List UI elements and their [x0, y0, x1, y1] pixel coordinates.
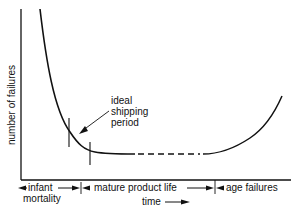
x-axis-label: time: [142, 196, 161, 207]
region-mature: mature product life: [94, 182, 177, 193]
region-age-failures: age failures: [226, 182, 278, 193]
arrow-left-icon: [216, 186, 224, 191]
annotation-line2: shipping: [111, 106, 148, 117]
y-axis-label: number of failures: [6, 65, 17, 145]
arrow-right-icon: [206, 186, 214, 191]
region-infant-line1: infant: [28, 182, 53, 193]
arrow-left-icon: [82, 186, 90, 191]
age-failures-curve: [203, 96, 282, 154]
annotation-line3: period: [111, 117, 139, 128]
annotation-line1: ideal: [111, 95, 132, 106]
time-arrow-icon: [181, 200, 190, 205]
arrow-right-icon: [72, 186, 80, 191]
region-infant-line2: mortality: [23, 193, 61, 204]
infant-mortality-curve: [40, 9, 135, 154]
bathtub-curve-diagram: number of failures ideal shipping period…: [0, 0, 297, 211]
